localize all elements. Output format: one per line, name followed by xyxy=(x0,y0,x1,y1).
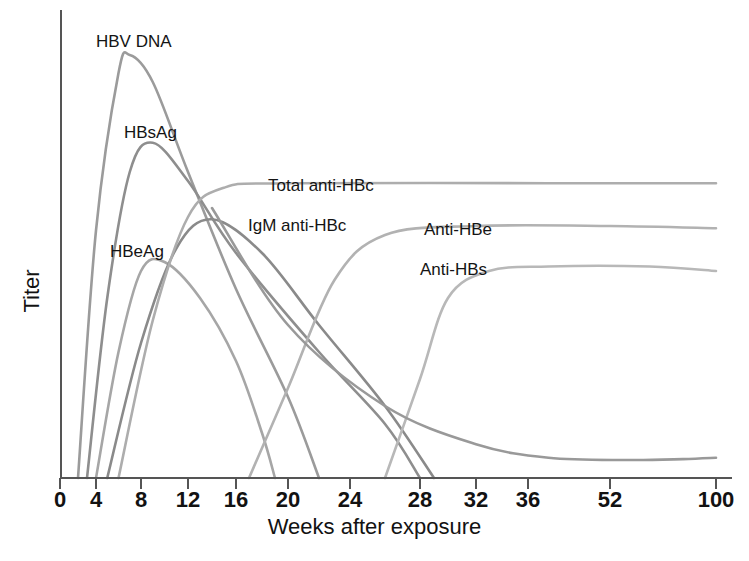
series-label-hbeag: HBeAg xyxy=(110,242,164,262)
x-tick-label-28: 28 xyxy=(408,487,432,513)
series-label-anti-hbs: Anti-HBs xyxy=(420,260,487,280)
x-tick-label-20: 20 xyxy=(276,487,300,513)
x-tick-label-4: 4 xyxy=(90,487,102,513)
x-tick-label-52: 52 xyxy=(598,487,622,513)
x-tick-label-8: 8 xyxy=(135,487,147,513)
x-tick-label-0: 0 xyxy=(54,487,66,513)
series-label-hbv-dna: HBV DNA xyxy=(96,32,172,52)
series-label-total-anti-hbc: Total anti-HBc xyxy=(268,176,374,196)
curve-group xyxy=(78,52,716,478)
series-label-anti-hbe: Anti-HBe xyxy=(424,220,492,240)
hepatitis-b-serology-chart: 0481216202428323652100 HBV DNA HBsAg HBe… xyxy=(0,0,749,561)
x-tick-label-36: 36 xyxy=(516,487,540,513)
curve-hbv-dna xyxy=(78,52,319,478)
x-tick-label-16: 16 xyxy=(224,487,248,513)
curve-hbeag xyxy=(96,259,275,478)
x-tick-label-24: 24 xyxy=(338,487,362,513)
series-label-hbsag: HBsAg xyxy=(124,123,177,143)
series-label-igm-anti-hbc: IgM anti-HBc xyxy=(248,216,346,236)
x-tick-label-12: 12 xyxy=(176,487,200,513)
curve-anti-hbs xyxy=(385,266,716,478)
y-axis-title: Titer xyxy=(19,246,45,336)
x-tick-label-100: 100 xyxy=(698,487,735,513)
x-axis-title: Weeks after exposure xyxy=(0,514,749,540)
curve-hbv-dna-tail xyxy=(212,208,716,460)
x-tick-label-32: 32 xyxy=(464,487,488,513)
chart-plot-area xyxy=(0,0,749,561)
